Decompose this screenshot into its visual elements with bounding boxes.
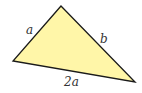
triangle-shape: [13, 6, 135, 82]
triangle-diagram: a b 2a: [0, 0, 142, 93]
bottom-side-label: 2a: [63, 75, 79, 89]
right-side-label: b: [100, 32, 108, 46]
left-side-label: a: [26, 23, 33, 37]
